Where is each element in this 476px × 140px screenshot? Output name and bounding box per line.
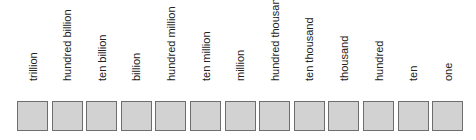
- place-label-wrap: trillion: [17, 1, 48, 93]
- place-column: hundred: [363, 0, 394, 140]
- place-digit-box[interactable]: [155, 101, 186, 131]
- place-label-wrap: billion: [121, 1, 152, 93]
- place-label: hundred million: [165, 6, 177, 81]
- place-label-wrap: ten billion: [86, 1, 117, 93]
- place-label-wrap: ten: [398, 1, 429, 93]
- place-label: hundred billion: [61, 9, 73, 81]
- place-column: ten thousand: [294, 0, 325, 140]
- place-digit-box[interactable]: [363, 101, 394, 131]
- place-digit-box[interactable]: [398, 101, 429, 131]
- place-label: million: [234, 50, 246, 81]
- place-label: ten million: [200, 31, 212, 81]
- place-label-wrap: million: [225, 1, 256, 93]
- place-label-wrap: hundred: [363, 1, 394, 93]
- place-label: hundred: [373, 41, 385, 81]
- place-label: ten: [407, 66, 419, 81]
- place-digit-box[interactable]: [121, 101, 152, 131]
- place-label: trillion: [27, 52, 39, 81]
- place-column: trillion: [17, 0, 48, 140]
- place-label-wrap: hundred billion: [52, 1, 83, 93]
- place-column: hundred thousand: [259, 0, 290, 140]
- place-column: ten million: [190, 0, 221, 140]
- place-digit-box[interactable]: [86, 101, 117, 131]
- place-label-wrap: hundred thousand: [259, 1, 290, 93]
- place-label-wrap: ten thousand: [294, 1, 325, 93]
- place-digit-box[interactable]: [190, 101, 221, 131]
- place-label: thousand: [338, 36, 350, 81]
- place-label-wrap: one: [432, 1, 463, 93]
- place-label-wrap: thousand: [328, 1, 359, 93]
- place-label: hundred thousand: [269, 0, 281, 81]
- place-label: ten thousand: [303, 17, 315, 81]
- place-digit-box[interactable]: [432, 101, 463, 131]
- place-digit-box[interactable]: [52, 101, 83, 131]
- place-digit-box[interactable]: [225, 101, 256, 131]
- place-label: ten billion: [96, 35, 108, 81]
- place-digit-box[interactable]: [328, 101, 359, 131]
- place-column: ten billion: [86, 0, 117, 140]
- place-digit-box[interactable]: [17, 101, 48, 131]
- place-column: hundred million: [155, 0, 186, 140]
- place-digit-box[interactable]: [294, 101, 325, 131]
- place-column: hundred billion: [52, 0, 83, 140]
- place-column: billion: [121, 0, 152, 140]
- place-label: billion: [130, 53, 142, 81]
- place-digit-box[interactable]: [259, 101, 290, 131]
- place-label: one: [442, 63, 454, 81]
- place-column: million: [225, 0, 256, 140]
- place-value-chart: trillionhundred billionten billionbillio…: [0, 0, 476, 140]
- place-column: one: [432, 0, 463, 140]
- place-label-wrap: hundred million: [155, 1, 186, 93]
- place-label-wrap: ten million: [190, 1, 221, 93]
- place-column: thousand: [328, 0, 359, 140]
- place-column: ten: [398, 0, 429, 140]
